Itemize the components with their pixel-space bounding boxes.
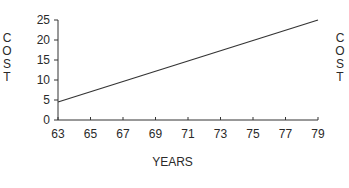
x-tick-label: 73 [214,127,228,141]
y-tick-label: 10 [37,73,51,87]
y-tick-label: 25 [37,13,51,27]
x-tick-label: 65 [84,127,98,141]
x-axis-ticks: 636567697173757779 [51,117,325,141]
y-tick-label: 20 [37,33,51,47]
data-series [58,20,318,102]
x-axis-label-text: YEARS [152,155,193,169]
x-tick-label: 75 [246,127,260,141]
y-tick-label: 15 [37,53,51,67]
y-axis-ticks: 0510152025 [37,13,58,127]
x-tick-label: 71 [181,127,195,141]
axes [58,20,318,120]
x-tick-label: 67 [116,127,130,141]
y-tick-label: 0 [43,113,50,127]
y-tick-label: 5 [43,93,50,107]
x-tick-label: 63 [51,127,65,141]
x-tick-label: 69 [149,127,163,141]
x-axis-label: YEARS [0,155,349,169]
x-tick-label: 79 [311,127,325,141]
series-line [58,20,318,102]
x-tick-label: 77 [279,127,293,141]
